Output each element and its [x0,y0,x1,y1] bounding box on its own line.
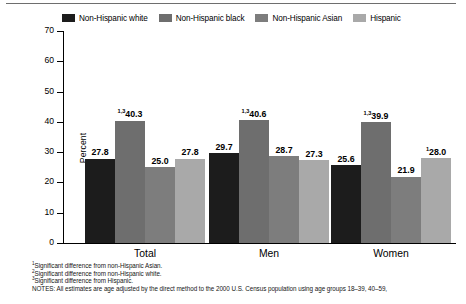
bar-value-label: 21.9 [397,165,414,175]
bar-men-0[interactable]: 29.7 [209,31,239,243]
y-axis-tick [57,61,63,62]
y-axis-tick-label: 50 [14,87,54,96]
bar-women-3[interactable]: 128.0 [421,31,451,243]
bar-rect[interactable] [299,160,329,243]
bar-value-label: 128.0 [426,147,446,157]
bar-rect[interactable] [361,122,391,243]
x-axis-group-label-total: Total [85,248,205,260]
bar-label-superscript: 1,3 [118,109,126,115]
x-axis-group-label-women: Women [331,248,451,260]
bar-value-label: 27.8 [181,147,198,157]
bar-rect[interactable] [239,120,269,243]
bar-total-1[interactable]: 1,340.3 [115,31,145,243]
bar-rect[interactable] [115,121,145,243]
bar-men-1[interactable]: 1,340.6 [239,31,269,243]
bar-rect[interactable] [269,156,299,243]
bar-women-2[interactable]: 21.9 [391,31,421,243]
legend-item-3[interactable]: Hispanic [353,14,401,23]
bar-value-label: 29.7 [215,142,232,152]
bar-women-1[interactable]: 1,339.9 [361,31,391,243]
y-axis-tick [57,31,63,32]
bar-group-men: 29.71,340.628.727.3 [209,31,329,243]
chart-notes: NOTES: All estimates are age adjusted by… [32,285,460,293]
bar-label-superscript: 1,3 [242,108,250,114]
bar-value-label: 25.6 [337,154,354,164]
legend-item-label: Non-Hispanic white [79,14,148,23]
y-axis-tick-label: 10 [14,208,54,217]
bar-total-3[interactable]: 27.8 [175,31,205,243]
top-divider [6,3,456,4]
bar-rect[interactable] [175,159,205,243]
y-axis-tick-label: 20 [14,177,54,186]
legend-swatch-icon [353,14,366,22]
bar-group-women: 25.61,339.921.9128.0 [331,31,451,243]
y-axis-tick [57,122,63,123]
footnote-3: 3Significant difference from Hispanic. [32,277,460,285]
bar-group-total: 27.81,340.325.027.8 [85,31,205,243]
legend-item-0[interactable]: Non-Hispanic white [62,14,148,23]
footnote-1: 1Significant difference from non-Hispani… [32,262,460,270]
bar-total-2[interactable]: 25.0 [145,31,175,243]
y-axis-tick [57,152,63,153]
legend-item-1[interactable]: Non-Hispanic black [159,14,245,23]
bar-rect[interactable] [85,159,115,243]
chart-legend: Non-Hispanic whiteNon-Hispanic blackNon-… [62,12,460,24]
bar-men-2[interactable]: 28.7 [269,31,299,243]
legend-item-label: Hispanic [370,14,401,23]
footnote-marker: 3 [32,276,35,281]
bar-rect[interactable] [331,165,361,243]
bar-value-label: 27.8 [91,147,108,157]
legend-item-2[interactable]: Non-Hispanic Asian [255,14,342,23]
bar-rect[interactable] [391,177,421,243]
bar-women-0[interactable]: 25.6 [331,31,361,243]
y-axis-tick-label: 40 [14,117,54,126]
x-axis-group-label-men: Men [209,248,329,260]
legend-swatch-icon [255,14,268,22]
bar-value-label: 27.3 [305,149,322,159]
y-axis-tick [57,92,63,93]
y-axis-tick-label: 30 [14,147,54,156]
plot-area: Percent 27.81,340.325.027.829.71,340.628… [63,31,456,243]
bar-value-label: 28.7 [275,145,292,155]
bar-value-label: 1,340.3 [118,109,143,119]
chart-figure: Non-Hispanic whiteNon-Hispanic blackNon-… [0,0,466,304]
footnote-marker: 1 [32,261,35,266]
y-axis-tick-label: 60 [14,56,54,65]
x-axis-line [63,243,456,244]
bar-men-3[interactable]: 27.3 [299,31,329,243]
bar-rect[interactable] [421,158,451,243]
bar-rect[interactable] [145,167,175,243]
bar-rect[interactable] [209,153,239,243]
y-axis-tick [57,182,63,183]
y-axis-tick [57,243,63,244]
bar-value-label: 1,339.9 [364,111,389,121]
legend-swatch-icon [62,14,75,22]
bar-total-0[interactable]: 27.8 [85,31,115,243]
bar-value-label: 1,340.6 [242,109,267,119]
legend-item-label: Non-Hispanic Asian [272,14,342,23]
bar-label-superscript: 1,3 [364,110,372,116]
y-axis-tick-label: 70 [14,26,54,35]
legend-swatch-icon [159,14,172,22]
y-axis-tick [57,213,63,214]
bar-value-label: 25.0 [151,156,168,166]
footnotes-block: 1Significant difference from non-Hispani… [32,262,460,292]
footnote-marker: 2 [32,269,35,274]
y-axis-tick-label: 0 [14,238,54,247]
bar-label-superscript: 1 [426,146,429,152]
legend-item-label: Non-Hispanic black [176,14,245,23]
